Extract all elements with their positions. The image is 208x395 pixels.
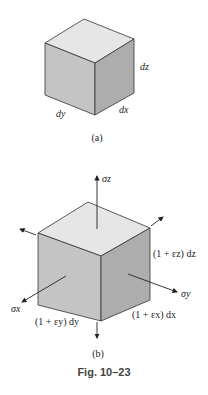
- label-part-a: (a): [91, 132, 102, 144]
- cube-b: [38, 202, 150, 321]
- figure-caption: Fig. 10–23: [77, 366, 130, 378]
- arrow-sigma-y-back: [151, 217, 163, 226]
- label-sigma-z: σz: [102, 173, 111, 184]
- label-part-b: (b): [92, 348, 104, 360]
- label-dim-z: (1 + εz) dz: [153, 248, 196, 260]
- label-sigma-x: σx: [11, 303, 21, 314]
- cube-a: [45, 19, 134, 115]
- label-dz: dz: [140, 61, 149, 72]
- label-dx: dx: [119, 104, 129, 115]
- label-dy: dy: [56, 108, 66, 119]
- figure-canvas: dz dy dx (a) σz σx σy (1 + εz) dz (1 + ε…: [0, 0, 208, 395]
- label-sigma-y: σy: [181, 288, 191, 299]
- label-dim-y: (1 + εy) dy: [35, 316, 79, 328]
- arrow-sigma-x-back: [20, 229, 36, 235]
- label-dim-x: (1 + εx) dx: [132, 309, 176, 321]
